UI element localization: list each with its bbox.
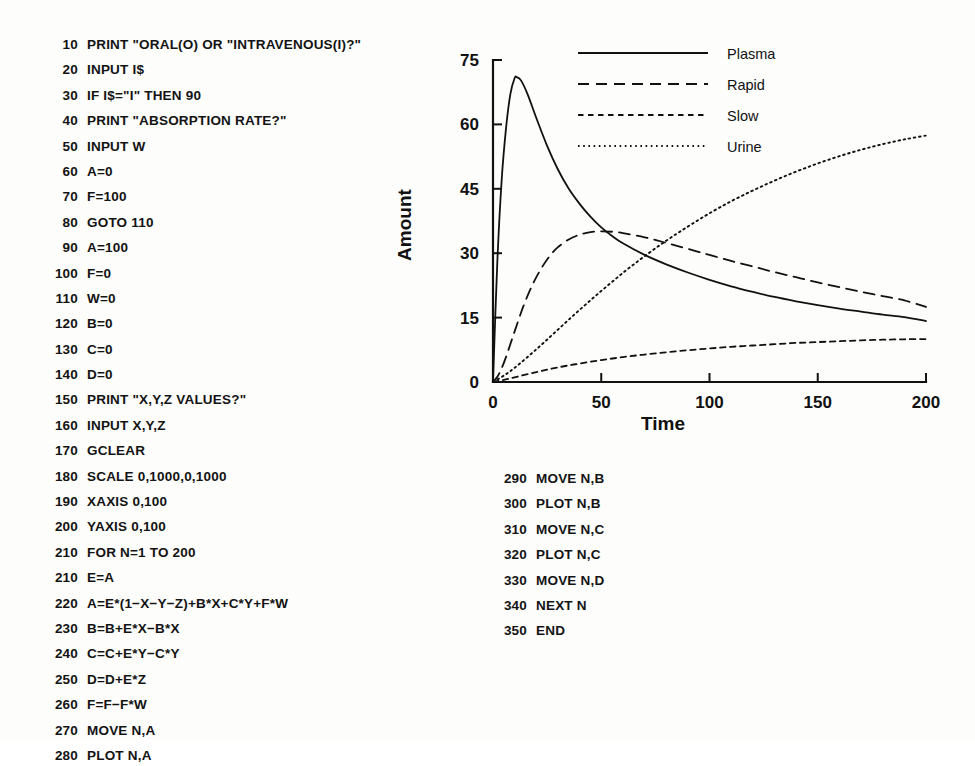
code-line: 70F=100 [48, 184, 361, 209]
code-line: 330MOVE N,D [497, 568, 604, 593]
code-line: 310MOVE N,C [497, 517, 604, 542]
code-statement: PLOT N,C [536, 542, 601, 567]
code-statement: F=0 [87, 261, 111, 286]
code-line-number: 140 [48, 362, 78, 387]
code-line-number: 50 [48, 134, 78, 159]
code-line: 230B=B+E*X−B*X [48, 616, 361, 641]
legend-label-rapid: Rapid [727, 77, 765, 93]
pharmacokinetics-chart: 05010015020001530456075 PlasmaRapidSlowU… [395, 20, 965, 450]
code-line: 100F=0 [48, 261, 361, 286]
code-line: 20INPUT I$ [48, 57, 361, 82]
code-line: 190XAXIS 0,100 [48, 489, 361, 514]
x-axis-tick-label: 50 [592, 393, 611, 412]
code-statement: XAXIS 0,100 [87, 489, 167, 514]
code-line-number: 340 [497, 593, 527, 618]
code-line-number: 100 [48, 261, 78, 286]
code-statement: MOVE N,B [536, 466, 604, 491]
y-axis-tick-label: 15 [460, 309, 479, 328]
code-statement: NEXT N [536, 593, 587, 618]
code-line-number: 10 [48, 32, 78, 57]
code-line-number: 160 [48, 413, 78, 438]
code-statement: PLOT N,B [536, 491, 601, 516]
code-line: 280PLOT N,A [48, 743, 361, 766]
code-statement: IF I$="I" THEN 90 [87, 83, 201, 108]
code-statement: MOVE N,C [536, 517, 604, 542]
code-line-number: 260 [48, 692, 78, 717]
code-line-number: 200 [48, 514, 78, 539]
code-line-number: 330 [497, 568, 527, 593]
x-axis-tick-label: 0 [488, 393, 497, 412]
basic-program-listing-left: 10PRINT "ORAL(O) OR "INTRAVENOUS(I)?"20I… [48, 32, 361, 766]
code-line-number: 310 [497, 517, 527, 542]
chart-curves [493, 76, 926, 382]
code-line-number: 170 [48, 438, 78, 463]
code-statement: FOR N=1 TO 200 [87, 540, 196, 565]
code-line: 130C=0 [48, 337, 361, 362]
chart-svg: 05010015020001530456075 PlasmaRapidSlowU… [395, 20, 965, 450]
code-statement: B=0 [87, 311, 113, 336]
code-line-number: 130 [48, 337, 78, 362]
code-statement: F=100 [87, 184, 127, 209]
code-statement: PLOT N,A [87, 743, 152, 766]
code-statement: B=B+E*X−B*X [87, 616, 180, 641]
curve-plasma [493, 76, 926, 382]
code-line-number: 90 [48, 235, 78, 260]
code-statement: E=A [87, 565, 114, 590]
code-statement: MOVE N,D [536, 568, 604, 593]
code-line: 260F=F−F*W [48, 692, 361, 717]
code-line: 320PLOT N,C [497, 542, 604, 567]
code-statement: A=0 [87, 159, 113, 184]
y-axis-tick-label: 0 [470, 373, 479, 392]
code-statement: D=0 [87, 362, 113, 387]
code-line: 160INPUT X,Y,Z [48, 413, 361, 438]
code-line-number: 240 [48, 641, 78, 666]
code-statement: A=E*(1−X−Y−Z)+B*X+C*Y+F*W [87, 591, 288, 616]
code-statement: PRINT "X,Y,Z VALUES?" [87, 387, 246, 412]
code-statement: A=100 [87, 235, 128, 260]
code-line-number: 300 [497, 491, 527, 516]
code-statement: INPUT W [87, 134, 145, 159]
code-line: 210E=A [48, 565, 361, 590]
code-line: 50INPUT W [48, 134, 361, 159]
code-statement: GOTO 110 [87, 210, 154, 235]
basic-program-listing-right: 290MOVE N,B300PLOT N,B310MOVE N,C320PLOT… [497, 466, 604, 644]
code-line-number: 190 [48, 489, 78, 514]
code-line-number: 280 [48, 743, 78, 766]
curve-urine [493, 136, 926, 382]
code-line: 240C=C+E*Y−C*Y [48, 641, 361, 666]
chart-axes [493, 60, 926, 382]
code-line: 80GOTO 110 [48, 210, 361, 235]
code-line: 350END [497, 618, 604, 643]
code-line: 290MOVE N,B [497, 466, 604, 491]
code-line-number: 230 [48, 616, 78, 641]
code-line-number: 250 [48, 667, 78, 692]
code-line-number: 150 [48, 387, 78, 412]
code-line-number: 210 [48, 540, 78, 565]
code-line-number: 350 [497, 618, 527, 643]
code-line: 180SCALE 0,1000,0,1000 [48, 464, 361, 489]
code-line: 150PRINT "X,Y,Z VALUES?" [48, 387, 361, 412]
code-line-number: 110 [48, 286, 78, 311]
curve-rapid [493, 231, 926, 382]
legend-label-urine: Urine [727, 139, 762, 155]
code-line-number: 210 [48, 565, 78, 590]
code-statement: PRINT "ABSORPTION RATE?" [87, 108, 287, 133]
code-line-number: 20 [48, 57, 78, 82]
code-line: 10PRINT "ORAL(O) OR "INTRAVENOUS(I)?" [48, 32, 361, 57]
x-axis-tick-label: 150 [804, 393, 832, 412]
code-line: 170GCLEAR [48, 438, 361, 463]
y-axis-tick-label: 45 [460, 180, 479, 199]
code-line-number: 320 [497, 542, 527, 567]
code-line: 30IF I$="I" THEN 90 [48, 83, 361, 108]
legend-label-plasma: Plasma [727, 46, 776, 62]
code-line-number: 80 [48, 210, 78, 235]
code-line-number: 120 [48, 311, 78, 336]
code-line: 90A=100 [48, 235, 361, 260]
code-statement: W=0 [87, 286, 116, 311]
x-axis-tick-label: 100 [695, 393, 723, 412]
code-line: 120B=0 [48, 311, 361, 336]
code-statement: GCLEAR [87, 438, 145, 463]
code-statement: INPUT I$ [87, 57, 144, 82]
code-line-number: 60 [48, 159, 78, 184]
code-line: 300PLOT N,B [497, 491, 604, 516]
